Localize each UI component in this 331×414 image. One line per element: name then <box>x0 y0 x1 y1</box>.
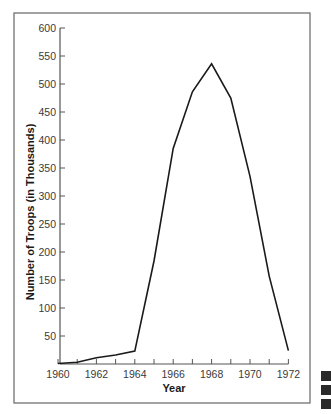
x-tick-label: 1960 <box>46 368 70 380</box>
y-tick-label: 100 <box>38 302 56 314</box>
chart-frame <box>14 13 310 403</box>
y-tick-label: 500 <box>38 78 56 90</box>
cropped-text-fragment <box>321 371 331 381</box>
x-tick-label: 1964 <box>123 368 147 380</box>
y-tick-label: 450 <box>38 106 56 118</box>
cropped-text-fragment <box>321 385 331 395</box>
y-tick-label: 50 <box>44 330 56 342</box>
y-tick-label: 400 <box>38 134 56 146</box>
y-tick-label: 300 <box>38 190 56 202</box>
x-tick-label: 1966 <box>162 368 186 380</box>
y-tick-label: 350 <box>38 162 56 174</box>
cropped-text-fragment <box>321 399 331 409</box>
y-axis-title: Number of Troops (in Thousands) <box>24 123 36 300</box>
y-tick-label: 600 <box>38 22 56 34</box>
y-tick-label: 550 <box>38 50 56 62</box>
x-tick-label: 1968 <box>200 368 224 380</box>
y-tick-label: 200 <box>38 246 56 258</box>
x-axis-title: Year <box>162 382 186 394</box>
x-tick-label: 1970 <box>238 368 262 380</box>
y-tick-label: 150 <box>38 274 56 286</box>
x-tick-label: 1972 <box>277 368 301 380</box>
y-tick-label: 250 <box>38 218 56 230</box>
x-tick-label: 1962 <box>85 368 109 380</box>
